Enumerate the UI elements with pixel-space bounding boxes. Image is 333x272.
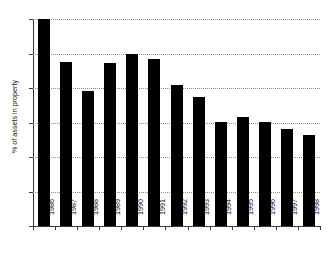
x-tick-label: 1991	[158, 199, 167, 233]
x-tick-label: 1988	[91, 199, 100, 233]
x-tick-label: 1995	[246, 199, 255, 233]
x-tick-label: 1989	[113, 199, 122, 233]
x-tick-label: 1998	[312, 199, 321, 233]
gridline	[33, 54, 320, 55]
x-tick-label: 1992	[180, 199, 189, 233]
x-tick-label: 1997	[290, 199, 299, 233]
x-tick-label: 1993	[202, 199, 211, 233]
x-tick-label: 1986	[47, 199, 56, 233]
plot-area	[33, 19, 320, 226]
bar-chart-figure: % of assets in property 024681012 198619…	[0, 0, 333, 272]
x-tick-label: 1996	[268, 199, 277, 233]
x-tick-label: 1994	[224, 199, 233, 233]
x-tick-label: 1990	[136, 199, 145, 233]
bar	[38, 19, 50, 226]
clipped-chart-title	[0, 0, 333, 9]
x-tick-label: 1987	[69, 199, 78, 233]
y-axis-label: % of assets in property	[10, 57, 19, 177]
gridline	[33, 19, 320, 20]
x-tick-mark	[33, 226, 34, 230]
